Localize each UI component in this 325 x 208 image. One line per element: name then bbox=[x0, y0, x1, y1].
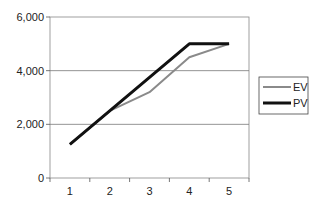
x-axis: 12345 bbox=[50, 178, 249, 197]
y-tick-label: 2,000 bbox=[16, 118, 44, 130]
x-tick-label: 3 bbox=[146, 185, 152, 197]
x-tick-label: 5 bbox=[226, 185, 232, 197]
legend-pv-label: PV bbox=[293, 97, 308, 109]
plot-area: 02,0004,0006,000 12345 bbox=[16, 11, 249, 197]
y-tick-label: 6,000 bbox=[16, 11, 44, 23]
y-tick-label: 4,000 bbox=[16, 65, 44, 77]
x-tick-label: 1 bbox=[67, 185, 73, 197]
x-tick-label: 4 bbox=[186, 185, 192, 197]
y-tick-label: 0 bbox=[38, 172, 44, 184]
legend: EV PV bbox=[259, 77, 308, 114]
legend-ev-label: EV bbox=[293, 81, 308, 93]
y-axis: 02,0004,0006,000 bbox=[16, 11, 50, 184]
x-tick-label: 2 bbox=[107, 185, 113, 197]
line-chart: 02,0004,0006,000 12345 EV PV bbox=[0, 0, 325, 208]
